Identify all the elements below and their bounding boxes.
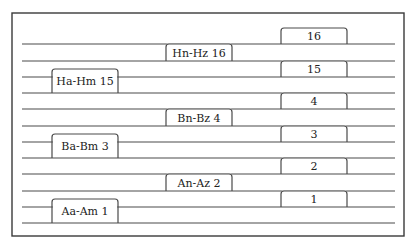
index-box: 3 <box>281 126 347 143</box>
index-box-label: 1 <box>311 193 318 206</box>
index-box-label: An-Az 2 <box>177 177 221 190</box>
index-box-label: 2 <box>311 160 318 173</box>
index-box-label: 4 <box>311 95 318 108</box>
index-box-label: 3 <box>311 128 318 141</box>
index-box: Ba-Bm 3 <box>52 134 118 159</box>
index-box-label: Ba-Bm 3 <box>61 140 108 153</box>
index-box-label: 15 <box>307 63 321 76</box>
index-box-label: Hn-Hz 16 <box>172 47 225 60</box>
index-box-label: 16 <box>307 30 321 43</box>
index-box: Bn-Bz 4 <box>166 109 232 127</box>
index-box: 1 <box>281 191 347 208</box>
index-box: An-Az 2 <box>166 174 232 192</box>
index-box: 16 <box>281 28 347 45</box>
index-timing-diagram: 16Hn-Hz 1615Ha-Hm 154Bn-Bz 43Ba-Bm 32An-… <box>0 0 415 247</box>
index-box: Hn-Hz 16 <box>166 44 232 62</box>
index-box: 15 <box>281 61 347 78</box>
index-box-label: Ha-Hm 15 <box>56 75 113 88</box>
index-box: 4 <box>281 93 347 110</box>
index-box: Ha-Hm 15 <box>52 69 118 94</box>
index-box: 2 <box>281 158 347 175</box>
index-box-label: Aa-Am 1 <box>60 205 108 218</box>
index-boxes: 16Hn-Hz 1615Ha-Hm 154Bn-Bz 43Ba-Bm 32An-… <box>52 28 347 224</box>
index-box-label: Bn-Bz 4 <box>177 112 220 125</box>
index-box: Aa-Am 1 <box>52 199 118 224</box>
